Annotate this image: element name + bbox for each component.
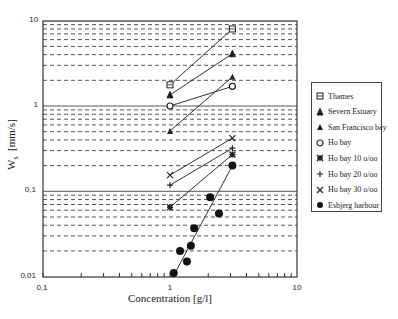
y-tick-label: 1 <box>34 100 38 109</box>
legend-item: San Francisco bay <box>316 120 387 134</box>
y-tick-label: 10 <box>29 15 38 24</box>
legend-item: Ho bay 10 o/oo <box>316 151 378 165</box>
series-thames <box>167 26 235 88</box>
legend-label: Ho bay 30 o/oo <box>328 185 378 194</box>
x-tick-label: 10 <box>293 283 302 292</box>
y-tick-label: 0,01 <box>20 271 36 280</box>
y-axis-label: Ws [mm/s] <box>5 119 20 170</box>
x-axis-label: Concentration [g/l] <box>128 292 212 304</box>
legend-label: Ho bay 10 o/oo <box>328 154 378 163</box>
circle-filled-marker-icon <box>316 201 324 209</box>
legend-item: Thames <box>316 89 353 103</box>
series-ho-bay-30-o-oo <box>167 135 235 178</box>
y-axis-label-unit: [mm/s] <box>5 119 17 151</box>
legend-item: Ho bay <box>316 136 351 150</box>
legend-item: Esbjerg harbour <box>316 198 379 212</box>
legend-label: Esbjerg harbour <box>328 201 379 210</box>
legend-label: Ho bay <box>328 138 351 147</box>
legend-item: Severn Estuary <box>316 105 377 119</box>
y-axis-label-sub: s <box>11 156 20 159</box>
y-axis-label-main: W <box>5 160 17 170</box>
y-tick-label: 0,1 <box>25 185 36 194</box>
series-ho-bay <box>167 83 235 109</box>
asterisk-marker-icon <box>316 154 324 162</box>
plot-frame <box>43 21 297 277</box>
legend-item: Ho bay 30 o/oo <box>316 183 378 197</box>
legend-label: Ho bay 20 o/oo <box>328 170 378 179</box>
circle-open-marker-icon <box>316 139 324 147</box>
x-tick-label: 1 <box>168 283 172 292</box>
legend-item: Ho bay 20 o/oo <box>316 167 378 181</box>
legend-label: San Francisco bay <box>328 123 387 132</box>
star-marker-icon <box>316 108 324 116</box>
triangle-marker-icon <box>316 123 324 131</box>
square-marker-icon <box>316 92 324 100</box>
x-marker-icon <box>316 186 324 194</box>
x-tick-label: 0,1 <box>36 283 47 292</box>
series-ho-bay-20-o-oo <box>167 145 235 188</box>
legend-label: Thames <box>328 92 353 101</box>
legend-label: Severn Estuary <box>328 107 377 116</box>
plus-marker-icon <box>316 170 324 178</box>
legend: ThamesSevern EstuarySan Francisco bayHo … <box>311 82 382 212</box>
